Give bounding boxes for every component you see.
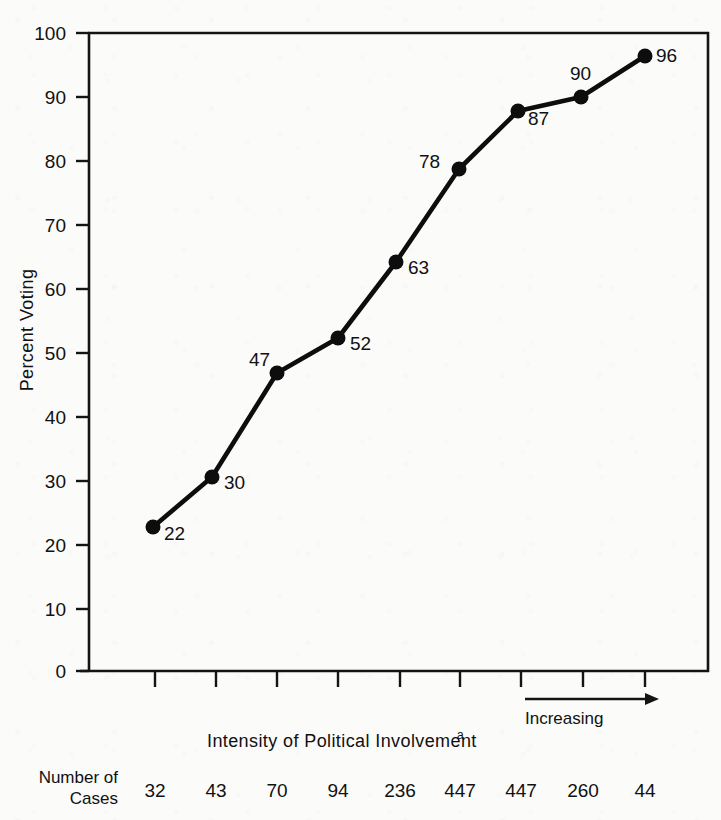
y-tick-label-80: 80 xyxy=(45,151,66,172)
data-point-1 xyxy=(146,520,161,535)
cases-value-5: 236 xyxy=(384,780,416,801)
data-label-2: 30 xyxy=(224,472,245,493)
x-axis-title-group: Intensity of Political Involvement a xyxy=(207,728,477,751)
cases-value-4: 94 xyxy=(327,780,349,801)
data-point-5 xyxy=(389,255,404,270)
cases-value-6: 447 xyxy=(444,780,476,801)
number-of-cases-row: Number of Cases 32 43 70 94 236 447 447 … xyxy=(39,768,656,808)
data-point-8 xyxy=(574,90,589,105)
cases-value-3: 70 xyxy=(266,780,287,801)
y-tick-label-60: 60 xyxy=(45,279,66,300)
y-tick-label-20: 20 xyxy=(45,535,66,556)
data-point-4 xyxy=(331,331,346,346)
y-axis-ticks xyxy=(76,33,89,671)
y-axis-title: Percent Voting xyxy=(17,269,37,392)
plot-frame xyxy=(80,32,709,672)
cases-value-9: 44 xyxy=(634,780,656,801)
y-tick-label-30: 30 xyxy=(45,471,66,492)
chart-page: 100 90 80 70 60 50 40 30 20 10 0 Percent… xyxy=(0,0,721,820)
data-label-1: 22 xyxy=(164,523,185,544)
y-tick-label-70: 70 xyxy=(45,215,66,236)
y-tick-label-90: 90 xyxy=(45,87,66,108)
data-label-4: 52 xyxy=(350,333,371,354)
y-tick-label-0: 0 xyxy=(55,661,66,682)
increasing-arrow-label: Increasing xyxy=(525,709,603,728)
cases-value-2: 43 xyxy=(205,780,226,801)
series-line-percent-voting xyxy=(153,56,645,527)
number-of-cases-label-line2: Cases xyxy=(70,789,118,808)
cases-value-1: 32 xyxy=(144,780,165,801)
data-label-9: 96 xyxy=(656,45,677,66)
cases-value-8: 260 xyxy=(567,780,599,801)
x-axis-title: Intensity of Political Involvement xyxy=(207,731,477,751)
y-tick-label-50: 50 xyxy=(45,343,66,364)
number-of-cases-label-line1: Number of xyxy=(39,768,119,787)
x-axis-ticks xyxy=(155,671,645,687)
data-point-2 xyxy=(205,470,220,485)
increasing-annotation: Increasing xyxy=(525,693,659,728)
data-label-3: 47 xyxy=(249,349,270,370)
y-tick-label-10: 10 xyxy=(45,599,66,620)
percent-voting-line-chart: 100 90 80 70 60 50 40 30 20 10 0 Percent… xyxy=(0,0,721,820)
data-label-8: 90 xyxy=(570,63,591,84)
data-point-7 xyxy=(511,104,526,119)
cases-value-7: 447 xyxy=(505,780,537,801)
increasing-arrow-head-icon xyxy=(645,693,659,705)
data-label-6: 78 xyxy=(419,151,440,172)
data-label-5: 63 xyxy=(408,257,429,278)
data-point-6 xyxy=(452,162,467,177)
data-point-9 xyxy=(638,49,653,64)
x-axis-title-superscript: a xyxy=(457,728,464,742)
y-tick-label-100: 100 xyxy=(34,23,66,44)
data-point-3 xyxy=(270,366,285,381)
data-label-7: 87 xyxy=(528,108,549,129)
y-tick-label-40: 40 xyxy=(45,407,66,428)
data-point-labels: 22 30 47 52 63 78 87 90 96 xyxy=(164,45,677,544)
y-axis-tick-labels: 100 90 80 70 60 50 40 30 20 10 0 xyxy=(34,23,66,682)
